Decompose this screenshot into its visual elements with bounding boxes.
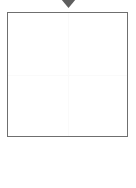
quadrant-top-left[interactable]	[8, 13, 68, 75]
caret-down-glyph	[61, 0, 76, 8]
quadrant-bottom-right[interactable]	[68, 75, 128, 137]
below-panel-blank-area	[0, 138, 136, 188]
caret-down-icon[interactable]	[61, 0, 76, 8]
quadrant-grid	[8, 13, 127, 136]
quadrant-bottom-left[interactable]	[8, 75, 68, 137]
bordered-panel[interactable]	[7, 12, 128, 137]
quadrant-top-right[interactable]	[68, 13, 128, 75]
app-root	[0, 0, 136, 188]
